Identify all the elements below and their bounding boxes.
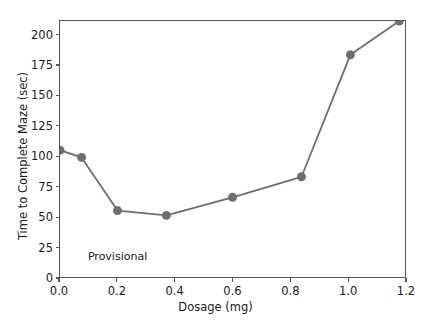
data-point [346, 50, 355, 59]
series-line [60, 21, 399, 215]
plot-area [59, 20, 406, 278]
x-tick-mark [174, 278, 175, 282]
y-tick-label: 0 [11, 271, 53, 285]
y-tick-label: 25 [11, 241, 53, 255]
y-tick-label: 150 [11, 88, 53, 102]
data-point [228, 193, 237, 202]
y-tick-mark [56, 34, 60, 35]
y-tick-mark [56, 247, 60, 248]
x-tick-mark [348, 278, 349, 282]
y-tick-label: 75 [11, 180, 53, 194]
x-tick-label: 0.6 [223, 284, 241, 298]
annotation-provisional: Provisional [88, 250, 147, 263]
y-tick-mark [56, 217, 60, 218]
y-tick-label: 125 [11, 119, 53, 133]
y-tick-mark [56, 125, 60, 126]
y-tick-mark [56, 95, 60, 96]
x-tick-mark [58, 278, 59, 282]
x-tick-mark [405, 278, 406, 282]
y-tick-mark [56, 64, 60, 65]
x-tick-mark [116, 278, 117, 282]
data-point [297, 172, 306, 181]
y-tick-label: 50 [11, 210, 53, 224]
data-point [60, 146, 64, 155]
y-tick-mark [56, 186, 60, 187]
x-tick-label: 1.2 [397, 284, 415, 298]
data-point [77, 153, 86, 162]
x-tick-label: 0.8 [281, 284, 299, 298]
x-axis-label: Dosage (mg) [0, 300, 431, 314]
y-tick-label: 200 [11, 28, 53, 42]
x-tick-label: 0.0 [50, 284, 68, 298]
x-tick-label: 1.0 [339, 284, 357, 298]
y-tick-mark [56, 156, 60, 157]
x-tick-label: 0.2 [108, 284, 126, 298]
data-point [162, 211, 171, 220]
data-point [113, 206, 122, 215]
y-tick-label: 175 [11, 58, 53, 72]
chart-figure: Time to Complete Maze (sec) 025507510012… [0, 0, 431, 323]
data-series-svg [60, 21, 405, 277]
x-tick-label: 0.4 [166, 284, 184, 298]
series-markers [60, 21, 404, 220]
y-tick-label: 100 [11, 149, 53, 163]
data-point [395, 21, 404, 25]
x-tick-mark [290, 278, 291, 282]
x-tick-mark [232, 278, 233, 282]
